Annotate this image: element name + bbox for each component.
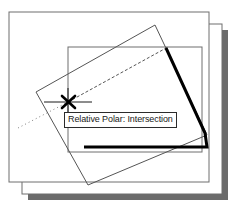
drawing-canvas[interactable] (0, 0, 247, 213)
snap-tooltip: Relative Polar: Intersection (64, 112, 177, 128)
cad-screenshot-canvas: Relative Polar: Intersection (0, 0, 247, 213)
